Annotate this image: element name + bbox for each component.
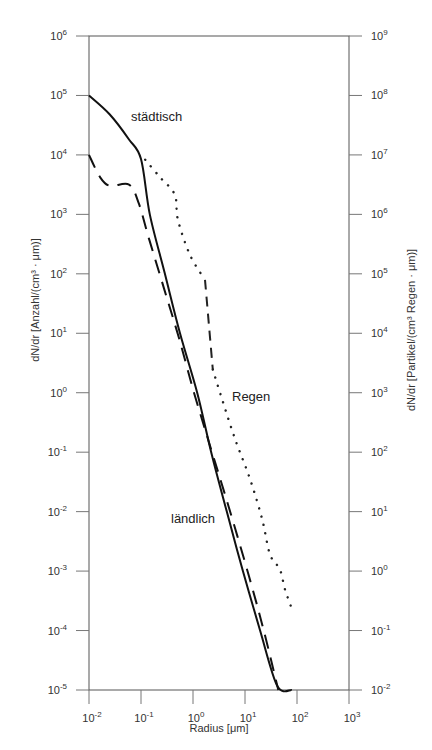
tick-label: 105	[50, 87, 67, 101]
tick-label: 106	[371, 206, 388, 220]
label-regen: Regen	[232, 389, 270, 404]
tick-label: 104	[50, 147, 67, 161]
series-regen-dotted-upper	[145, 160, 205, 280]
left-y-axis-title: dN/dr [Anzahl/(cm³ · μm)]	[29, 238, 41, 362]
right-y-axis-title: dN/dr [Partikel/(cm³ Regen · μm)]	[405, 249, 417, 411]
tick-label: 10-1	[134, 710, 154, 724]
tick-label: 101	[371, 504, 388, 518]
left-y-axis-ticks: 10610510410310210110010-110-210-310-410-…	[48, 28, 89, 696]
tick-label: 10-1	[48, 444, 68, 458]
plot-frame	[89, 36, 349, 690]
tick-label: 10-2	[82, 710, 102, 724]
tick-label: 105	[371, 266, 388, 280]
tick-label: 103	[344, 710, 361, 724]
tick-label: 103	[371, 385, 388, 399]
tick-label: 10-2	[48, 504, 68, 518]
x-axis-title: Radius [μm]	[190, 722, 249, 734]
series-regen-dashed-drop	[205, 280, 213, 370]
tick-label: 10-4	[48, 623, 68, 637]
right-y-axis-ticks: 10910810710610510410310210110010-110-2	[349, 28, 391, 696]
tick-label: 10-1	[371, 623, 391, 637]
tick-label: 107	[371, 147, 388, 161]
tick-label: 10-2	[371, 682, 391, 696]
tick-label: 109	[371, 28, 388, 42]
tick-label: 103	[50, 206, 67, 220]
tick-label: 101	[50, 325, 67, 339]
series-laendlich-line	[89, 155, 278, 690]
tick-label: 102	[50, 266, 67, 280]
tick-label: 10-5	[48, 682, 68, 696]
label-laendlich: ländlich	[171, 511, 215, 526]
particle-size-distribution-chart: 10-210-1100101102103 1061051041031021011…	[0, 0, 432, 750]
label-staedtisch: städtisch	[131, 109, 182, 124]
tick-label: 106	[50, 28, 67, 42]
tick-label: 102	[292, 710, 309, 724]
tick-label: 104	[371, 325, 388, 339]
x-axis-ticks: 10-210-1100101102103	[82, 690, 361, 724]
tick-label: 100	[371, 563, 388, 577]
tick-label: 100	[50, 385, 67, 399]
tick-label: 10-3	[48, 563, 68, 577]
tick-label: 102	[371, 444, 388, 458]
tick-label: 108	[371, 87, 388, 101]
